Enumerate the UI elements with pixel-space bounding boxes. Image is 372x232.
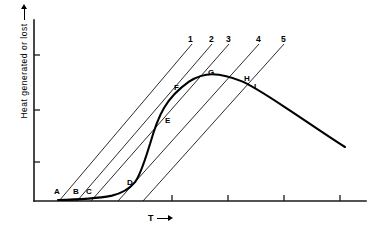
point-label-h: H <box>244 75 250 83</box>
y-axis-label-text: Heat generated or lost <box>19 23 29 118</box>
line-label-3: 3 <box>226 35 231 44</box>
heat-loss-line-4 <box>118 44 259 201</box>
right-arrow-icon <box>157 215 174 222</box>
point-label-e: E <box>165 117 170 125</box>
chart-plot-area <box>0 0 372 232</box>
x-axis-label-text: T <box>148 213 154 223</box>
line-label-1: 1 <box>188 35 193 44</box>
point-label-a: A <box>54 188 60 196</box>
line-label-5: 5 <box>281 35 286 44</box>
point-label-i: I <box>254 83 256 91</box>
up-arrow-icon <box>21 3 28 20</box>
point-label-f: F <box>174 84 179 92</box>
point-label-c: C <box>86 188 92 196</box>
line-label-2: 2 <box>209 35 214 44</box>
x-axis-label: T <box>148 213 174 223</box>
heat-loss-line-1 <box>59 44 192 201</box>
heat-loss-line-2 <box>77 44 212 201</box>
figure-container: 1 2 3 4 5 A B C D E F G H I Heat generat… <box>0 0 372 232</box>
point-label-g: G <box>208 69 214 77</box>
point-label-d: D <box>127 179 133 187</box>
heat-generation-curve <box>58 74 345 200</box>
point-label-b: B <box>73 188 79 196</box>
line-label-4: 4 <box>256 35 261 44</box>
y-axis-label: Heat generated or lost <box>17 0 31 136</box>
